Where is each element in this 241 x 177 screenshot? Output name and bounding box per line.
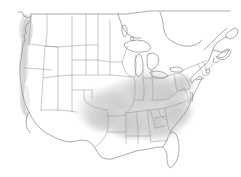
north-america-map-svg	[0, 0, 241, 177]
range-map-figure: Distribution range map of North America …	[0, 0, 241, 177]
range-blob-ozarks	[82, 102, 126, 134]
